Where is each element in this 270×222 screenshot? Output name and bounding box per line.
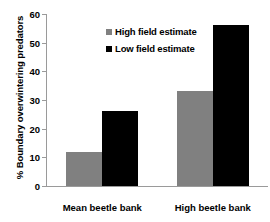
legend: High field estimateLow field estimate bbox=[106, 26, 197, 60]
y-tick-label: 0 bbox=[35, 181, 40, 192]
y-tick-label: 40 bbox=[29, 66, 40, 77]
y-tick-label: 10 bbox=[29, 152, 40, 163]
y-tick-label: 60 bbox=[29, 9, 40, 20]
x-axis-line bbox=[46, 186, 268, 187]
x-axis-category-label: Mean beetle bank bbox=[63, 202, 142, 213]
bar-chart: % Boundary overwintering predators 01020… bbox=[0, 0, 270, 222]
legend-swatch-icon bbox=[106, 46, 112, 52]
legend-item: High field estimate bbox=[106, 26, 197, 37]
bar bbox=[102, 111, 138, 186]
y-tick-label: 50 bbox=[29, 37, 40, 48]
legend-label: Low field estimate bbox=[115, 43, 195, 54]
y-tick-label: 20 bbox=[29, 123, 40, 134]
y-axis-title: % Boundary overwintering predators bbox=[14, 3, 25, 193]
y-tick-mark bbox=[42, 186, 47, 187]
legend-swatch-icon bbox=[106, 29, 112, 35]
bar bbox=[213, 25, 249, 186]
bar bbox=[177, 91, 213, 186]
bar bbox=[66, 152, 102, 186]
plot-area: 0102030405060 Mean beetle bankHigh beetl… bbox=[46, 12, 268, 189]
x-axis-category-label: High beetle bank bbox=[175, 202, 251, 213]
legend-label: High field estimate bbox=[115, 26, 197, 37]
y-tick-label: 30 bbox=[29, 95, 40, 106]
legend-item: Low field estimate bbox=[106, 43, 197, 54]
